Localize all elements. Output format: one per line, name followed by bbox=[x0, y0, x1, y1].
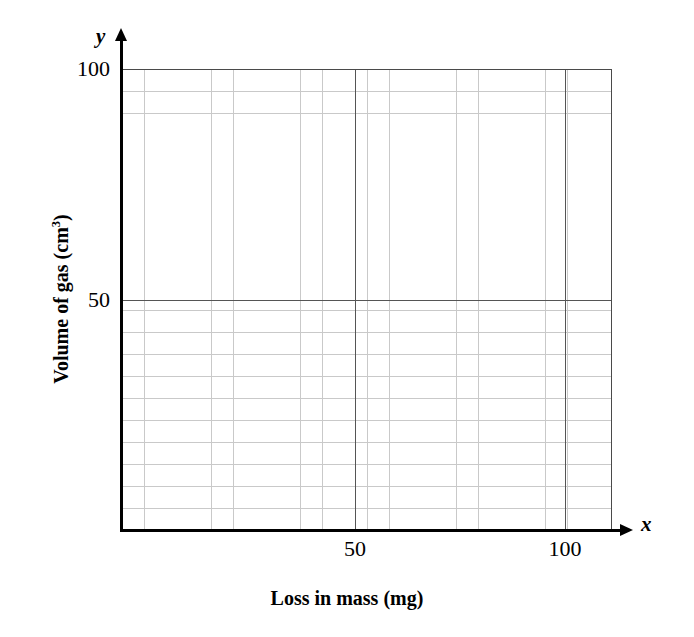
y-axis-title-tail: ) bbox=[50, 214, 72, 221]
y-axis-name: y bbox=[96, 26, 105, 47]
y-axis-title: Volume of gas (cm3) bbox=[51, 214, 71, 383]
x-axis-arrowhead-icon bbox=[620, 524, 633, 536]
y-axis-line bbox=[120, 38, 123, 532]
y-axis-arrowhead-icon bbox=[115, 28, 127, 41]
x-tick-label-50: 50 bbox=[317, 538, 393, 560]
graph-page: y x 100 50 50 100 Loss in mass (mg) Volu… bbox=[0, 0, 694, 637]
x-tick-label-100: 100 bbox=[527, 538, 603, 560]
x-axis-line bbox=[120, 529, 623, 532]
grid-border-top bbox=[122, 69, 612, 70]
plot-area bbox=[122, 69, 612, 530]
y-axis-title-main: Volume of gas (cm bbox=[50, 227, 72, 383]
gridline-major-y-50 bbox=[122, 300, 612, 301]
x-axis-name: x bbox=[641, 514, 652, 535]
grid-border-right bbox=[611, 69, 612, 530]
y-axis-title-exponent: 3 bbox=[49, 221, 63, 227]
y-axis-title-wrapper: Volume of gas (cm3) bbox=[47, 89, 75, 509]
y-tick-label-100: 100 bbox=[58, 58, 110, 80]
x-axis-title: Loss in mass (mg) bbox=[0, 588, 694, 608]
